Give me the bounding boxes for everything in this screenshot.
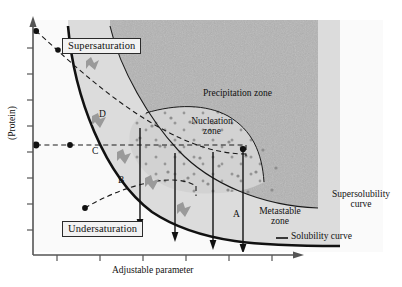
dot-C-second [67, 142, 73, 148]
phase-diagram-figure: Supersaturation Undersaturation Precipit… [0, 0, 402, 287]
supersaturation-label: Supersaturation [62, 38, 141, 54]
nucleation-zone-label: Nucleation zone [176, 117, 248, 137]
precipitation-zone-label: Precipitation zone [203, 89, 272, 99]
supersolubility-curve-label: Supersolubility curve [322, 190, 400, 210]
undersaturation-label: Undersaturation [62, 221, 143, 237]
solubility-curve-label: Solubility curve [291, 232, 352, 242]
metastable-zone-label: Metastable zone [250, 207, 310, 227]
metastable-zone-label-line2: zone [271, 216, 289, 226]
y-axis-ticks [27, 48, 33, 230]
x-axis-ticks [57, 255, 272, 261]
nucleation-zone-label-line1: Nucleation [191, 116, 233, 126]
metastable-zone-label-line1: Metastable [259, 206, 301, 216]
trajectory-label-D: D [99, 110, 106, 120]
dot-A-start [240, 146, 246, 152]
trajectory-label-A: A [233, 210, 240, 220]
phase-diagram-canvas [0, 0, 402, 287]
supersolubility-curve-label-line1: Supersolubility [332, 189, 390, 199]
nucleation-zone-label-line2: zone [203, 126, 221, 136]
x-axis-label: Adjustable parameter [112, 266, 194, 276]
dot-D-start [33, 28, 39, 34]
supersolubility-curve-label-line2: curve [350, 199, 371, 209]
y-axis-label: (Protein) [7, 93, 17, 153]
trajectory-label-B: B [118, 176, 124, 186]
dot-D-second [55, 47, 61, 53]
dot-B-start [82, 205, 88, 211]
x-axis-arrowhead [293, 251, 304, 258]
trajectory-label-C: C [92, 147, 98, 157]
